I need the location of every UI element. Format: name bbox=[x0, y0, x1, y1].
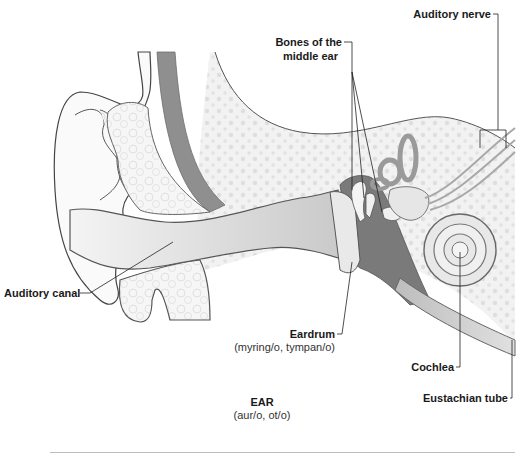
label-auditory-nerve: Auditory nerve bbox=[405, 8, 491, 21]
label-eardrum: Eardrum bbox=[270, 328, 335, 341]
label-bones-line2: middle ear bbox=[262, 50, 338, 63]
label-cochlea: Cochlea bbox=[400, 361, 454, 374]
caption-title: EAR bbox=[200, 396, 324, 409]
figure-caption: EAR (aur/o, ot/o) bbox=[200, 396, 324, 422]
bottom-divider bbox=[50, 452, 515, 453]
label-eustachian-tube: Eustachian tube bbox=[408, 392, 508, 405]
label-eardrum-roots: (myring/o, tympan/o) bbox=[225, 341, 335, 354]
label-bones-line1: Bones of the bbox=[262, 36, 342, 49]
label-auditory-canal: Auditory canal bbox=[4, 287, 80, 300]
caption-subtitle: (aur/o, ot/o) bbox=[200, 409, 324, 422]
